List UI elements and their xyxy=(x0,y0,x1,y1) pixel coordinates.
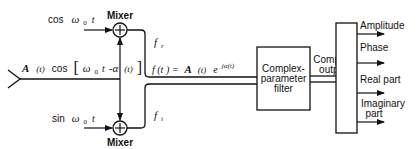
output-amplitude: Amplitude xyxy=(357,20,405,34)
cos-oscillator-label: cos ω 0 t xyxy=(48,9,95,28)
imag-branch-line xyxy=(127,84,257,128)
mixer-top: Mixer xyxy=(107,10,133,37)
complex-parameter-filter: Complex- parameter filter xyxy=(257,47,310,110)
svg-text:Real part: Real part xyxy=(360,74,401,85)
output-imaginary-part: Imaginary part xyxy=(357,98,405,122)
sin-oscillator-label: sin ω 0 t xyxy=(52,108,95,127)
signal-diagram: A (t) cos [ ω 0 t -α (t) ] Mixer Mixer c… xyxy=(0,0,417,149)
mixer-bottom: Mixer xyxy=(107,121,133,148)
svg-text:Amplitude: Amplitude xyxy=(360,20,405,31)
input-signal-label: A (t) cos [ ω 0 t -α (t) ] xyxy=(21,58,142,77)
svg-text:filter: filter xyxy=(274,83,294,94)
mixer-top-label: Mixer xyxy=(107,10,133,21)
output-real-part: Real part xyxy=(357,74,401,93)
svg-text:Phase: Phase xyxy=(360,42,389,53)
output-phase: Phase xyxy=(357,42,389,63)
svg-text:part: part xyxy=(365,108,382,119)
mixer-bottom-label: Mixer xyxy=(107,137,133,148)
output-converter-box xyxy=(336,23,357,133)
fr-label: f r xyxy=(154,32,164,50)
complex-signal-label: f (t ) = A (t) e jα(t) xyxy=(152,59,235,76)
fi-label: f i xyxy=(154,105,163,123)
